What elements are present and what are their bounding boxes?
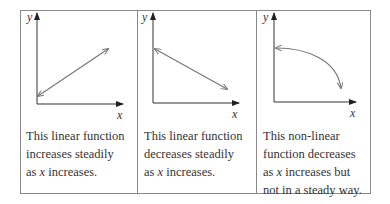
decreasing-line bbox=[155, 49, 227, 89]
y-axis-label: y bbox=[262, 10, 269, 24]
decreasing-curve bbox=[276, 48, 341, 88]
caption-line: as x increases. bbox=[144, 163, 243, 181]
panel-linear-increasing: y x This linear function increases stead… bbox=[20, 10, 137, 194]
caption-line: as x increases but bbox=[263, 163, 362, 181]
caption-line: not in a steady way. bbox=[263, 181, 362, 199]
caption-line: This linear function bbox=[144, 127, 243, 145]
caption-line: decreases steadily bbox=[144, 145, 243, 163]
x-axis-label: x bbox=[349, 106, 356, 120]
y-axis-label: y bbox=[141, 10, 148, 24]
caption-line: This linear function bbox=[26, 127, 125, 145]
increasing-line bbox=[38, 49, 108, 96]
caption-linear-increasing: This linear function increases steadily … bbox=[26, 127, 125, 181]
caption-line: increases steadily bbox=[26, 145, 125, 163]
x-axis-label: x bbox=[116, 108, 123, 122]
y-axis-label: y bbox=[26, 10, 33, 24]
panel-linear-decreasing: y x This linear function decreases stead… bbox=[138, 10, 256, 194]
caption-line: function decreases bbox=[263, 145, 362, 163]
caption-linear-decreasing: This linear function decreases steadily … bbox=[144, 127, 243, 181]
caption-line: This non-linear bbox=[263, 127, 362, 145]
x-axis-label: x bbox=[231, 107, 238, 121]
caption-nonlinear-decreasing: This non-linear function decreases as x … bbox=[263, 127, 362, 199]
caption-line: as x increases. bbox=[26, 163, 125, 181]
panel-nonlinear-decreasing: y x This non-linear function decreases a… bbox=[257, 10, 371, 194]
